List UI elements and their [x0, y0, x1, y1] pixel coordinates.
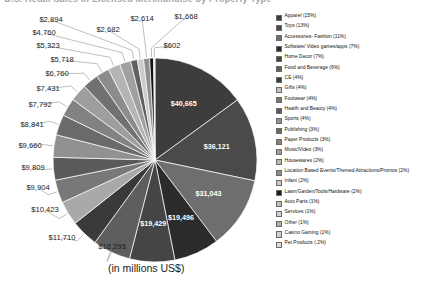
legend-item[interactable]: Health and Beauty (4%): [276, 106, 426, 114]
legend-swatch-icon: [276, 159, 282, 165]
pie-slice-value-label: $36,121: [204, 142, 230, 151]
legend-item-label: Apparel (15%): [285, 13, 317, 18]
pie-slice-value-label: $6,760: [45, 69, 68, 78]
pie-slices: [53, 58, 257, 262]
legend-swatch-icon: [276, 242, 282, 248]
pie-leader-line: [51, 20, 134, 59]
pie-slice-value-label: $16,293: [98, 242, 125, 251]
pie-slice-value-label: $602: [164, 41, 181, 50]
legend-swatch-icon: [276, 180, 282, 186]
legend-item-label: Auto Parts (1%): [285, 199, 320, 204]
legend-item[interactable]: Gifts (4%): [276, 85, 426, 93]
legend-item-label: Food and Beverage (6%): [285, 65, 340, 70]
legend-item-label: Location Based Events/Themed Attractions…: [285, 168, 409, 173]
legend-item-label: Home Decor (7%): [285, 54, 324, 59]
legend-item-label: Lawn/Garden/Tools/Hardware (2%): [285, 189, 362, 194]
legend-item-label: Publishing (3%): [285, 127, 320, 132]
legend-swatch-icon: [276, 149, 282, 155]
legend-swatch-icon: [276, 128, 282, 134]
legend-item-label: Music/Video (3%): [285, 147, 324, 152]
pie-chart-area: $40,665$36,121$31,043$19,496$19,429 $16,…: [0, 0, 286, 305]
legend-item-label: Software/ Video games/apps (7%): [285, 44, 360, 49]
legend-item[interactable]: Paper Products (3%): [276, 137, 426, 145]
chart-caption: (in millions US$): [108, 262, 184, 274]
pie-slice-value-label: $8,841: [20, 120, 43, 129]
legend-swatch-icon: [276, 211, 282, 217]
pie-leader-line: [142, 19, 147, 57]
legend-item[interactable]: Toys (13%): [276, 23, 426, 31]
legend-swatch-icon: [276, 108, 282, 114]
legend-swatch-icon: [276, 35, 282, 41]
pie-slice-value-label: $11,710: [49, 233, 76, 242]
pie-slice-value-label: $2,894: [39, 15, 62, 24]
legend-swatch-icon: [276, 97, 282, 103]
pie-slice-value-label: $19,429: [140, 219, 166, 228]
pie-slice-value-label: $10,423: [31, 205, 58, 214]
chart-legend: Apparel (15%)Toys (13%)Accessories- Fash…: [276, 13, 426, 251]
legend-item-label: Other (1%): [285, 220, 309, 225]
legend-item-label: Casino Gaming (1%): [285, 230, 331, 235]
legend-item[interactable]: Accessories- Fashion (11%): [276, 34, 426, 42]
legend-swatch-icon: [276, 201, 282, 207]
pie-chart-svg: $40,665$36,121$31,043$19,496$19,429 $16,…: [0, 0, 286, 305]
pie-slice-value-label: $5,323: [36, 41, 59, 50]
legend-swatch-icon: [276, 66, 282, 72]
legend-item[interactable]: Services (1%): [276, 209, 426, 217]
pie-slice-value-label: $40,665: [171, 99, 197, 108]
legend-item-label: CE (4%): [285, 75, 304, 80]
pie-slice-value-label: $31,043: [195, 189, 221, 198]
legend-item[interactable]: Food and Beverage (6%): [276, 65, 426, 73]
legend-swatch-icon: [276, 118, 282, 124]
legend-item-label: Services (1%): [285, 209, 316, 214]
legend-item[interactable]: Software/ Video games/apps (7%): [276, 44, 426, 52]
legend-item-label: Toys (13%): [285, 23, 310, 28]
pie-slice-value-label: $9,809: [21, 163, 44, 172]
legend-item[interactable]: Infant (2%): [276, 178, 426, 186]
pie-leader-line: [108, 30, 140, 58]
legend-item-label: Gifts (4%): [285, 85, 307, 90]
pie-slice-value-label: $7,431: [36, 84, 59, 93]
pie-slice-value-label: $19,496: [168, 213, 194, 222]
legend-swatch-icon: [276, 190, 282, 196]
legend-swatch-icon: [276, 221, 282, 227]
pie-slice-value-label: $7,792: [28, 100, 51, 109]
legend-item-label: Paper Products (3%): [285, 137, 331, 142]
legend-item[interactable]: CE (4%): [276, 75, 426, 83]
chart-screenshot: U.S. Retail Sales of Licensed Merchandis…: [0, 0, 426, 305]
pie-slice-value-label: $2,682: [96, 25, 119, 34]
legend-item[interactable]: Lawn/Garden/Tools/Hardware (2%): [276, 189, 426, 197]
pie-slice-value-label: $1,668: [174, 12, 197, 21]
legend-item-label: Accessories- Fashion (11%): [285, 34, 346, 39]
pie-slice-value-label: $9,660: [18, 141, 41, 150]
legend-item[interactable]: Publishing (3%): [276, 127, 426, 135]
legend-swatch-icon: [276, 77, 282, 83]
pie-slice-value-label: $4,760: [32, 28, 55, 37]
legend-item[interactable]: Pet Products (.2%): [276, 240, 426, 248]
legend-swatch-icon: [276, 87, 282, 93]
legend-item[interactable]: Housewares (2%): [276, 158, 426, 166]
legend-swatch-icon: [276, 25, 282, 31]
pie-slice-value-label: $9,904: [26, 183, 49, 192]
legend-item[interactable]: Casino Gaming (1%): [276, 230, 426, 238]
legend-item[interactable]: Music/Video (3%): [276, 147, 426, 155]
legend-swatch-icon: [276, 170, 282, 176]
legend-item[interactable]: Location Based Events/Themed Attractions…: [276, 168, 426, 176]
legend-swatch-icon: [276, 15, 282, 21]
legend-item[interactable]: Apparel (15%): [276, 13, 426, 21]
pie-slice-value-label: $2,614: [130, 14, 153, 23]
legend-item-label: Infant (2%): [285, 178, 309, 183]
legend-item-label: Sports (4%): [285, 116, 311, 121]
legend-swatch-icon: [276, 56, 282, 62]
legend-item-label: Pet Products (.2%): [285, 240, 326, 245]
legend-swatch-icon: [276, 46, 282, 52]
legend-item[interactable]: Other (1%): [276, 220, 426, 228]
legend-item-label: Housewares (2%): [285, 158, 324, 163]
legend-swatch-icon: [276, 231, 282, 237]
legend-item[interactable]: Home Decor (7%): [276, 54, 426, 62]
legend-item[interactable]: Sports (4%): [276, 116, 426, 124]
legend-item-label: Health and Beauty (4%): [285, 106, 337, 111]
pie-leader-line: [151, 17, 186, 57]
legend-item-label: Footwear (4%): [285, 96, 317, 101]
legend-item[interactable]: Footwear (4%): [276, 96, 426, 104]
legend-item[interactable]: Auto Parts (1%): [276, 199, 426, 207]
